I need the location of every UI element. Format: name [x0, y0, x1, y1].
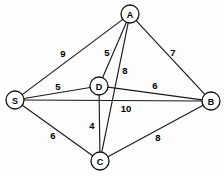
edge-weight-s-a: 9 — [60, 48, 65, 59]
edge-weight-c-b: 8 — [155, 132, 160, 143]
edge-weight-a-c: 8 — [122, 65, 127, 76]
graph-edge-a-b — [136, 21, 205, 95]
graph-diagram: ASBCD 95875610468 — [0, 0, 224, 176]
node-label-a: A — [127, 10, 134, 20]
edge-weight-d-c: 4 — [89, 120, 95, 131]
node-label-s: S — [12, 96, 18, 106]
graph-edge-d-c — [99, 95, 100, 152]
edge-weight-s-b: 10 — [121, 103, 132, 114]
edge-weight-d-b: 6 — [152, 80, 157, 91]
graph-edge-s-b — [24, 100, 202, 101]
graph-node-s[interactable]: S — [6, 91, 24, 109]
node-label-d: D — [96, 82, 103, 92]
node-label-c: C — [97, 157, 104, 167]
edge-weight-s-d: 5 — [55, 81, 61, 92]
edge-weight-a-b: 7 — [170, 47, 175, 58]
edge-weight-a-d: 5 — [104, 47, 110, 58]
graph-node-a[interactable]: A — [121, 5, 139, 23]
graph-node-c[interactable]: C — [91, 152, 109, 170]
node-label-b: B — [208, 97, 215, 107]
graph-node-d[interactable]: D — [90, 77, 108, 95]
graph-edge-s-c — [22, 105, 92, 156]
edge-weight-s-c: 6 — [50, 130, 55, 141]
graph-canvas: ASBCD 95875610468 — [0, 0, 224, 176]
graph-node-b[interactable]: B — [202, 92, 220, 110]
